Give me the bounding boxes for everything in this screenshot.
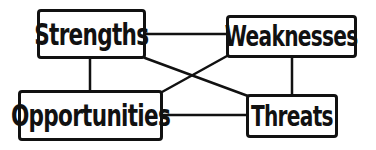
opportunities-label: Opportunities — [11, 98, 170, 133]
strengths-box: Strengths — [37, 9, 146, 59]
edge-weaknesses-opportunities — [162, 56, 227, 92]
opportunities-box: Opportunities — [18, 90, 163, 141]
strengths-label: Strengths — [34, 17, 148, 52]
swot-diagram: Strengths Weaknesses Opportunities Threa… — [0, 0, 376, 150]
weaknesses-box: Weaknesses — [226, 15, 357, 58]
threats-label: Threats — [251, 100, 333, 133]
weaknesses-label: Weaknesses — [225, 20, 358, 53]
threats-box: Threats — [246, 94, 338, 138]
